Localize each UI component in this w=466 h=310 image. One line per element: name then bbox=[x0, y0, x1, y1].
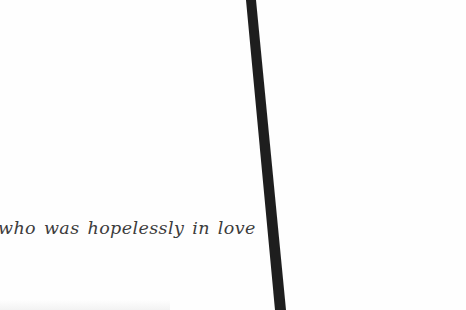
page-background: who was hopelessly in love bbox=[0, 0, 466, 310]
bottom-shadow bbox=[0, 300, 170, 310]
diagonal-bar bbox=[0, 0, 466, 310]
